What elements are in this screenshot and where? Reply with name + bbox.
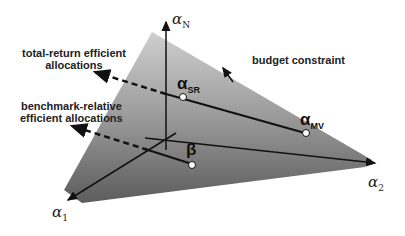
total-return-label: total-return efficient allocations (22, 47, 126, 71)
benchmark-relative-label: benchmark-relative efficient allocations (20, 100, 123, 124)
point-label-alpha-sr: αSR (177, 74, 200, 95)
diagram: total-return efficient allocations bench… (0, 0, 405, 236)
point-label-alpha-mv: αMV (300, 110, 324, 131)
axis-label-alpha-2: α2 (368, 173, 384, 193)
axis-label-alpha-n: αN (172, 10, 190, 30)
axis-label-alpha-1: α1 (52, 203, 68, 223)
point-label-beta: β (186, 140, 196, 160)
budget-constraint-label: budget constraint (252, 54, 345, 66)
